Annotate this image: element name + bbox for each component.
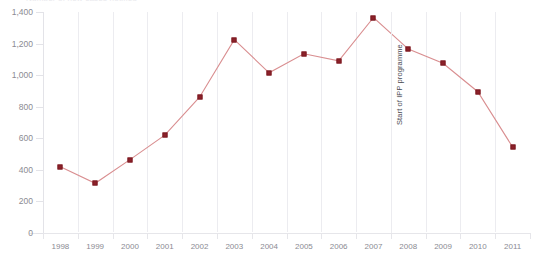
y-axis-tick — [36, 44, 43, 45]
data-point — [127, 157, 132, 162]
data-point — [475, 89, 480, 94]
gridline — [426, 12, 427, 232]
gridline — [321, 12, 322, 232]
x-axis-line — [29, 233, 531, 234]
y-axis-tick — [36, 170, 43, 171]
y-axis-label: 1,000 — [0, 71, 33, 80]
gridline — [460, 12, 461, 232]
data-point — [232, 37, 237, 42]
y-axis-label: 0 — [0, 229, 33, 238]
data-point — [93, 181, 98, 186]
x-axis-tick — [182, 233, 183, 239]
data-point — [301, 51, 306, 56]
y-axis-tick — [36, 107, 43, 108]
x-axis-tick — [391, 233, 392, 239]
x-axis-tick — [356, 233, 357, 239]
annotation-label: Start of IPP programme — [395, 44, 404, 125]
y-axis-label: 800 — [0, 103, 33, 112]
x-axis-tick — [113, 233, 114, 239]
gridline — [495, 12, 496, 232]
x-axis-tick — [426, 233, 427, 239]
gridline — [147, 12, 148, 232]
x-axis-tick — [460, 233, 461, 239]
y-axis-line — [43, 12, 44, 233]
gridline — [287, 12, 288, 232]
data-point — [267, 70, 272, 75]
data-point — [58, 164, 63, 169]
y-axis-tick — [36, 12, 43, 13]
x-axis-tick — [495, 233, 496, 239]
x-axis-label: 2011 — [493, 243, 533, 251]
data-point — [406, 47, 411, 52]
gridline — [356, 12, 357, 232]
y-axis-label: 1,400 — [0, 8, 33, 17]
gridline — [78, 12, 79, 232]
gridline — [217, 12, 218, 232]
y-axis-tick — [36, 201, 43, 202]
data-point — [162, 133, 167, 138]
data-point — [336, 58, 341, 63]
x-axis-tick — [43, 233, 44, 239]
line-chart: Number of new cases notified 02004006008… — [0, 0, 537, 260]
series-line — [0, 0, 537, 260]
y-axis-tick — [36, 75, 43, 76]
annotation-gridline — [391, 12, 392, 233]
x-axis-tick — [530, 233, 531, 239]
y-axis-label: 400 — [0, 166, 33, 175]
gridline — [182, 12, 183, 232]
x-axis-tick — [287, 233, 288, 239]
x-axis-tick — [252, 233, 253, 239]
data-point — [441, 61, 446, 66]
y-axis-label: 200 — [0, 197, 33, 206]
x-axis-tick — [321, 233, 322, 239]
data-point — [510, 144, 515, 149]
x-axis-tick — [78, 233, 79, 239]
data-point — [197, 95, 202, 100]
gridline — [113, 12, 114, 232]
y-axis-tick — [36, 138, 43, 139]
y-axis-label: 1,200 — [0, 40, 33, 49]
y-axis-tick — [36, 233, 43, 234]
gridline — [252, 12, 253, 232]
data-point — [371, 15, 376, 20]
x-axis-tick — [217, 233, 218, 239]
y-axis-label: 600 — [0, 134, 33, 143]
x-axis-tick — [147, 233, 148, 239]
chart-title: Number of new cases notified — [26, 0, 137, 3]
